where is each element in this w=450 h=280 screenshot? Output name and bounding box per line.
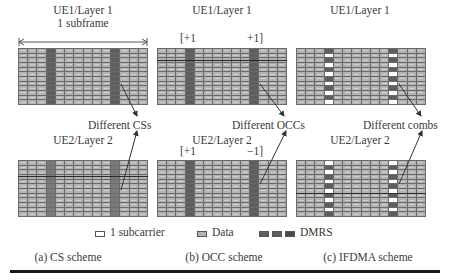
panel-c-caption: (c) IFDMA scheme xyxy=(323,251,412,263)
bottom-rule xyxy=(10,270,440,273)
dmrs-legend-icon-2 xyxy=(272,231,282,237)
difference-arrows xyxy=(0,0,450,280)
panel-b-caption: (b) OCC scheme xyxy=(185,251,262,263)
legend-data-label: Data xyxy=(212,226,234,238)
legend-subcarrier-label: 1 subcarrier xyxy=(110,226,165,238)
dmrs-legend-icon-1 xyxy=(259,231,269,237)
subcarrier-legend-icon xyxy=(95,231,105,237)
dmrs-legend-icon-3 xyxy=(285,231,295,237)
data-legend-icon xyxy=(197,231,207,237)
legend-dmrs-label: DMRS xyxy=(300,226,333,238)
panel-a-caption: (a) CS scheme xyxy=(34,251,101,263)
